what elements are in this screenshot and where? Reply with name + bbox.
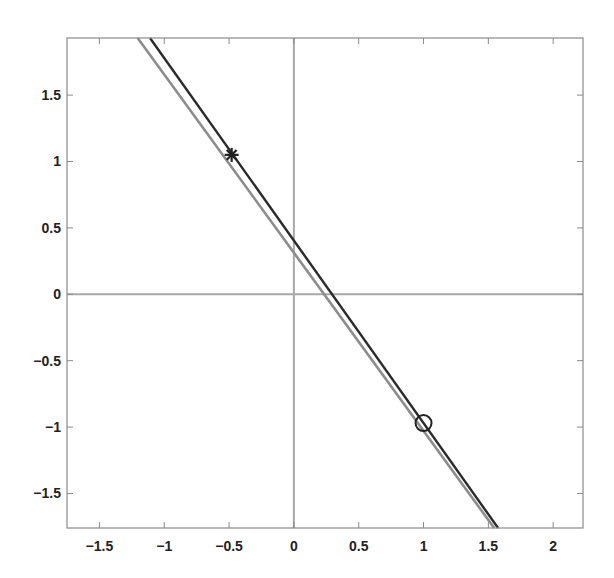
x-tick-label: 1.5 — [479, 538, 499, 554]
x-tick-label: 2 — [549, 538, 557, 554]
x-tick-label: −0.5 — [215, 538, 243, 554]
x-tick-label: 0.5 — [349, 538, 369, 554]
y-tick-label: −1.5 — [33, 485, 61, 501]
y-tick-label: 1 — [53, 153, 61, 169]
x-tick-label: −1 — [156, 538, 172, 554]
x-tick-label: 1 — [420, 538, 428, 554]
y-tick-label: −0.5 — [33, 353, 61, 369]
y-tick-label: −1 — [45, 419, 61, 435]
gray-line — [138, 38, 495, 528]
x-tick-label: −1.5 — [86, 538, 114, 554]
y-tick-label: 0.5 — [42, 220, 62, 236]
y-tick-label: 1.5 — [42, 87, 62, 103]
line-chart: −1.5−1−0.500.511.52 1.510.50−0.5−1−1.5 — [0, 0, 614, 578]
series-lines — [138, 38, 498, 528]
y-tick-label: 0 — [53, 286, 61, 302]
x-axis-ticks: −1.5−1−0.500.511.52 — [86, 38, 558, 554]
x-tick-label: 0 — [290, 538, 298, 554]
dark-line — [150, 38, 498, 528]
star-marker — [225, 148, 239, 162]
